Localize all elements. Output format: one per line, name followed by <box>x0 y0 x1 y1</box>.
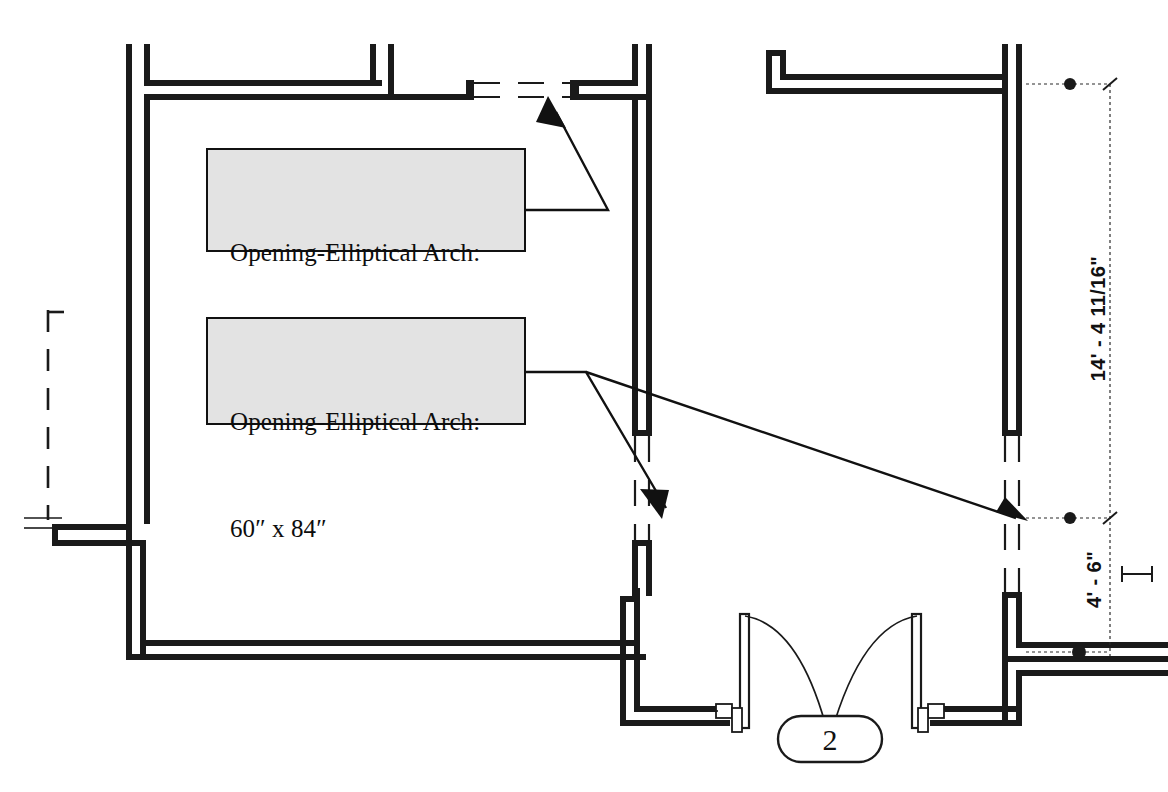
floor-plan-drawing: Opening-Elliptical Arch: 36″ x 84″ Openi… <box>0 0 1168 792</box>
floor-plan-geometry <box>0 0 1168 792</box>
door-tag-number: 2 <box>780 723 880 757</box>
leader-opening-60 <box>524 372 1028 521</box>
annotation-60-line1: Opening-Elliptical Arch: <box>230 404 524 440</box>
wall-right-lower <box>930 592 1168 726</box>
dimension-tick-lower <box>1122 566 1152 582</box>
wall-left-jog <box>24 518 146 660</box>
dimension-text-lower: 4' - 6" <box>1083 530 1106 630</box>
wall-left-exterior <box>126 44 150 524</box>
wall-top-left-segment <box>144 44 474 100</box>
hidden-overhead-dashed-line <box>48 310 64 520</box>
annotation-36-line1: Opening-Elliptical Arch: <box>230 235 524 271</box>
wall-top-right-segment <box>570 44 652 436</box>
annotation-box-opening-36[interactable]: Opening-Elliptical Arch: 36″ x 84″ <box>206 148 526 252</box>
dimension-text-upper: 14' - 4 11/16" <box>1087 239 1110 399</box>
leader-opening-36 <box>524 96 608 210</box>
annotation-box-opening-60[interactable]: Opening-Elliptical Arch: 60″ x 84″ <box>206 317 526 425</box>
annotation-60-line2: 60″ x 84″ <box>230 511 524 547</box>
wall-center-vertical-lower <box>632 540 652 596</box>
opening-36-dashed <box>474 83 578 97</box>
wall-top-right-block <box>766 44 1022 436</box>
